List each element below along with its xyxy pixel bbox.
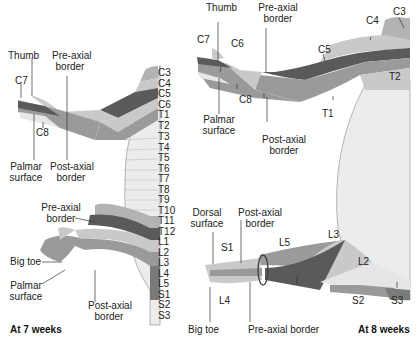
right-c7-label: C7 — [197, 34, 210, 45]
right-pre-axial-label: Pre-axialborder — [258, 2, 298, 24]
right-t2-label: T2 — [389, 71, 401, 82]
text: border — [50, 172, 92, 183]
text: border — [88, 311, 130, 322]
text: surface — [190, 218, 224, 229]
text: Palmar — [8, 280, 44, 291]
seg-t1: T1 — [158, 110, 175, 121]
left-c8-label: C8 — [36, 127, 49, 138]
right-thumb-label: Thumb — [206, 2, 237, 13]
text: Pre-axial — [40, 202, 82, 213]
right-l3-label: L3 — [328, 229, 339, 240]
left-segment-list: C3 C4 C5 C6 T1 T2 T3 T4 T5 T6 T7 T8 T9 T… — [158, 68, 175, 321]
seg-t2: T2 — [158, 121, 175, 132]
seg-t11: T11 — [158, 216, 175, 227]
left-thumb-label: Thumb — [8, 50, 39, 61]
text: Post-axial — [50, 161, 92, 172]
left-c7-label: C7 — [15, 75, 28, 86]
seg-l1: L1 — [158, 237, 175, 248]
left-pre-axial-label: Pre-axialborder — [52, 50, 88, 72]
seg-l5: L5 — [158, 279, 175, 290]
text: Post-axial — [238, 207, 282, 218]
right-dorsal-label: Dorsalsurface — [190, 207, 224, 229]
left-lower-palmar-label: Palmarsurface — [8, 280, 44, 302]
right-c3-label: C3 — [393, 6, 406, 17]
left-post-axial-label: Post-axialborder — [50, 161, 92, 183]
right-t1-label: T1 — [322, 108, 334, 119]
text: border — [262, 145, 306, 156]
text: Post-axial — [88, 300, 130, 311]
left-caption: At 7 weeks — [10, 324, 62, 335]
right-pre-axial-border-label: Pre-axial border — [248, 324, 319, 335]
right-c4-label: C4 — [366, 15, 379, 26]
left-lower-pre-axial-label: Pre-axialborder — [40, 202, 82, 224]
text: border — [238, 218, 282, 229]
right-big-toe-label: Big toe — [188, 324, 219, 335]
text: Pre-axial — [258, 2, 298, 13]
left-palmar-label: Palmarsurface — [8, 161, 44, 183]
right-palmar-label: Palmarsurface — [200, 114, 238, 136]
seg-t3: T3 — [158, 132, 175, 143]
right-l2-label: L2 — [358, 256, 369, 267]
seg-t9: T9 — [158, 195, 175, 206]
seg-s2: S2 — [158, 300, 175, 311]
left-big-toe-label: Big toe — [10, 256, 41, 267]
seg-s3: S3 — [158, 311, 175, 322]
right-caption: At 8 weeks — [358, 324, 410, 335]
seg-t5: T5 — [158, 153, 175, 164]
seg-t7: T7 — [158, 174, 175, 185]
right-c5-label: C5 — [318, 44, 331, 55]
text: border — [258, 13, 298, 24]
right-c8-label: C8 — [239, 94, 252, 105]
text: Palmar — [200, 114, 238, 125]
right-c6-label: C6 — [231, 38, 244, 49]
text: Post-axial — [262, 134, 306, 145]
text: surface — [8, 291, 44, 302]
right-s1-label: S1 — [221, 242, 233, 253]
seg-l3: L3 — [158, 258, 175, 269]
right-s3-label: S3 — [391, 295, 403, 306]
right-l5-label: L5 — [279, 237, 290, 248]
seg-c3: C3 — [158, 68, 175, 79]
seg-c5: C5 — [158, 89, 175, 100]
right-post-axial-label: Post-axialborder — [262, 134, 306, 156]
right-lower-post-axial-label: Post-axialborder — [238, 207, 282, 229]
text: Dorsal — [190, 207, 224, 218]
text: border — [52, 61, 88, 72]
text: Pre-axial — [52, 50, 88, 61]
text: surface — [8, 172, 44, 183]
text: border — [40, 213, 82, 224]
left-lower-post-axial-label: Post-axialborder — [88, 300, 130, 322]
text: Palmar — [8, 161, 44, 172]
dermatome-diagram: C3 C4 C5 C6 T1 T2 T3 T4 T5 T6 T7 T8 T9 T… — [0, 0, 418, 344]
right-l4-label: L4 — [219, 295, 230, 306]
right-s2-label: S2 — [352, 295, 364, 306]
text: surface — [200, 125, 238, 136]
